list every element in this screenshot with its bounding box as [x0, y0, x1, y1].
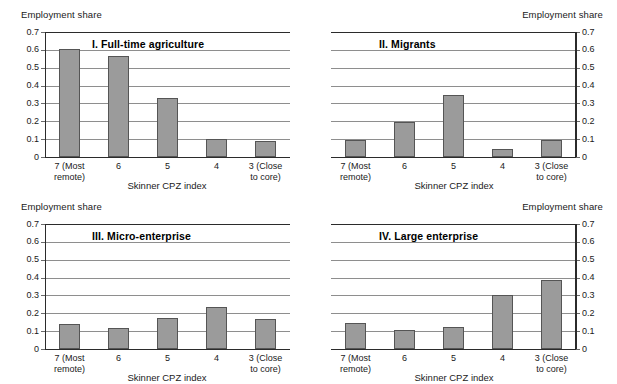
y-tick-label: 0.2 [582, 117, 595, 126]
y-tick-label: 0.1 [582, 327, 595, 336]
y-axis-title: Employment share [21, 201, 102, 212]
bar [59, 49, 80, 157]
y-tick-label: 0.7 [26, 220, 39, 229]
bar [157, 98, 178, 157]
x-tick-label: 4 [500, 161, 505, 172]
y-tick-label: 0.2 [26, 309, 39, 318]
plot-area: 0.70.60.50.40.30.20.10 [331, 32, 576, 157]
bar [255, 141, 276, 157]
bar-series [331, 32, 576, 157]
bar [394, 122, 415, 157]
y-tick-label: 0 [34, 345, 39, 354]
gridline [45, 349, 290, 350]
y-tick-label: 0.7 [582, 28, 595, 37]
y-tick-label: 0 [34, 153, 39, 162]
x-tick-label: 7 (Mostremote) [54, 353, 85, 374]
y-tick-mark [576, 139, 580, 140]
x-tick-label: 4 [500, 353, 505, 364]
bar [59, 324, 80, 349]
y-tick-mark [576, 260, 580, 261]
x-tick-label: 5 [451, 353, 456, 364]
gridline [331, 157, 576, 158]
y-tick-mark [41, 157, 45, 158]
y-tick-label: 0.3 [26, 99, 39, 108]
y-tick-label: 0.4 [582, 273, 595, 282]
x-tick-label: 5 [165, 161, 170, 172]
y-axis-title: Employment share [522, 201, 603, 212]
x-tick-label: 4 [214, 161, 219, 172]
y-tick-label: 0.4 [582, 81, 595, 90]
y-tick-mark [576, 86, 580, 87]
x-axis-title: Skinner CPZ index [127, 180, 206, 191]
x-tick-label: 7 (Mostremote) [340, 353, 371, 374]
x-tick-label: 3 (Closeto core) [249, 161, 283, 182]
x-axis-title: Skinner CPZ index [127, 372, 206, 383]
y-axis-title: Employment share [21, 9, 102, 20]
x-tick-label: 5 [451, 161, 456, 172]
x-axis-title: Skinner CPZ index [414, 372, 493, 383]
y-tick-label: 0.5 [582, 255, 595, 264]
x-tick-label: 6 [116, 161, 121, 172]
y-tick-mark [576, 50, 580, 51]
y-tick-label: 0.5 [26, 63, 39, 72]
x-tick-label: 3 (Closeto core) [535, 353, 569, 374]
y-tick-label: 0.1 [26, 135, 39, 144]
gridline [45, 157, 290, 158]
multi-panel-bar-chart-figure: Employment share I. Full-time agricultur… [0, 0, 617, 384]
y-tick-mark [576, 224, 580, 225]
y-tick-mark [576, 295, 580, 296]
y-tick-label: 0.3 [26, 291, 39, 300]
y-tick-label: 0.1 [582, 135, 595, 144]
x-tick-label: 6 [116, 353, 121, 364]
y-tick-mark [576, 242, 580, 243]
y-tick-label: 0.5 [26, 255, 39, 264]
x-tick-label: 6 [402, 161, 407, 172]
y-tick-label: 0.6 [26, 237, 39, 246]
bar [443, 327, 464, 349]
x-tick-label: 7 (Mostremote) [340, 161, 371, 182]
bar [492, 295, 513, 349]
y-tick-mark [576, 349, 580, 350]
y-tick-label: 0.4 [26, 81, 39, 90]
plot-area: 0.70.60.50.40.30.20.10 [331, 224, 576, 349]
bar [492, 149, 513, 157]
y-tick-label: 0 [582, 153, 587, 162]
plot-area: 0.70.60.50.40.30.20.10 [45, 224, 290, 349]
bar [443, 95, 464, 157]
y-tick-label: 0 [582, 345, 587, 354]
bar-series [45, 224, 290, 349]
bar [206, 307, 227, 349]
y-tick-mark [576, 121, 580, 122]
bar [255, 319, 276, 349]
bar [394, 330, 415, 349]
y-tick-label: 0.4 [26, 273, 39, 282]
bar [345, 140, 366, 157]
y-tick-label: 0.6 [582, 237, 595, 246]
y-tick-mark [576, 331, 580, 332]
y-tick-label: 0.2 [582, 309, 595, 318]
x-tick-label: 5 [165, 353, 170, 364]
y-tick-label: 0.7 [582, 220, 595, 229]
x-tick-label: 4 [214, 353, 219, 364]
bar [345, 323, 366, 349]
bar-series [45, 32, 290, 157]
y-tick-label: 0.5 [582, 63, 595, 72]
x-tick-label: 3 (Closeto core) [535, 161, 569, 182]
gridline [331, 349, 576, 350]
y-tick-label: 0.7 [26, 28, 39, 37]
y-tick-mark [576, 278, 580, 279]
y-tick-mark [41, 349, 45, 350]
y-tick-label: 0.3 [582, 99, 595, 108]
bar [108, 328, 129, 349]
panel-iv-large-enterprise: Employment share IV. Large enterprise 0.… [309, 192, 617, 384]
bar [541, 280, 562, 349]
y-tick-mark [576, 313, 580, 314]
plot-area: 0.70.60.50.40.30.20.10 [45, 32, 290, 157]
panel-i-full-time-agriculture: Employment share I. Full-time agricultur… [0, 0, 308, 192]
x-tick-label: 6 [402, 353, 407, 364]
y-tick-label: 0.1 [26, 327, 39, 336]
panel-ii-migrants: Employment share II. Migrants 0.70.60.50… [309, 0, 617, 192]
y-tick-label: 0.2 [26, 117, 39, 126]
bar-series [331, 224, 576, 349]
x-tick-label: 7 (Mostremote) [54, 161, 85, 182]
